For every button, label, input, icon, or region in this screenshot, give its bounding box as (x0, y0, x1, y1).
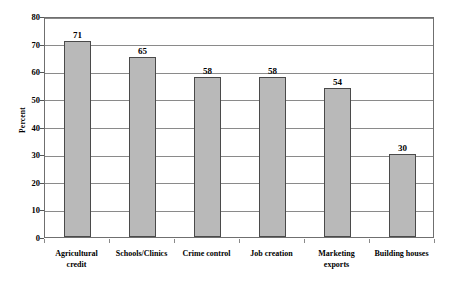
y-axis-tick-label: 30 (22, 151, 40, 160)
y-axis-tick-label: 0 (22, 234, 40, 243)
y-axis-tick-mark (40, 100, 44, 101)
y-axis-tick-mark (40, 210, 44, 211)
bar (389, 154, 416, 237)
x-axis-tick-mark (239, 239, 240, 243)
bar (64, 41, 91, 237)
y-axis-tick-label: 20 (22, 179, 40, 188)
bar (324, 88, 351, 237)
bar-value-label: 58 (268, 67, 277, 76)
x-axis-category-label: Building houses (369, 248, 434, 259)
x-axis-category-label: Job creation (239, 248, 304, 259)
x-axis-category-label: Crime control (174, 248, 239, 259)
bar-chart: Percent 01020304050607080 716558585430 A… (0, 0, 449, 286)
bar-value-label: 30 (398, 144, 407, 153)
y-axis-tick-label: 50 (22, 96, 40, 105)
x-axis-category-label: Agricultural credit (44, 248, 109, 270)
bar (259, 77, 286, 237)
y-axis-tick-mark (40, 17, 44, 18)
bar-value-label: 54 (333, 78, 342, 87)
y-axis-tick-label: 60 (22, 68, 40, 77)
y-axis-tick-label: 10 (22, 206, 40, 215)
x-axis-tick-mark (304, 239, 305, 243)
y-axis-tick-label: 70 (22, 40, 40, 49)
x-axis-tick-mark (109, 239, 110, 243)
y-axis-tick-mark (40, 72, 44, 73)
y-axis-tick-mark (40, 128, 44, 129)
y-axis-tick-mark (40, 155, 44, 156)
bar-value-label: 58 (203, 67, 212, 76)
bar-value-label: 71 (73, 31, 82, 40)
y-axis-tick-label: 40 (22, 123, 40, 132)
x-axis-tick-mark (174, 239, 175, 243)
bar (194, 77, 221, 237)
y-axis-tick-labels: 01020304050607080 (22, 17, 40, 238)
x-axis-category-labels: Agricultural creditSchools/ClinicsCrime … (44, 248, 434, 282)
x-axis-tick-mark (44, 239, 45, 243)
y-axis-tick-mark (40, 45, 44, 46)
plot-area: 716558585430 (44, 17, 434, 238)
y-axis-tick-mark (40, 183, 44, 184)
x-axis-category-label: Schools/Clinics (109, 248, 174, 259)
bar (129, 57, 156, 237)
x-axis-tick-mark (434, 239, 435, 243)
bar-value-label: 65 (138, 47, 147, 56)
x-axis-category-label: Marketing exports (304, 248, 369, 270)
x-axis-tick-mark (369, 239, 370, 243)
y-axis-tick-label: 80 (22, 13, 40, 22)
bars-group: 716558585430 (45, 18, 433, 237)
